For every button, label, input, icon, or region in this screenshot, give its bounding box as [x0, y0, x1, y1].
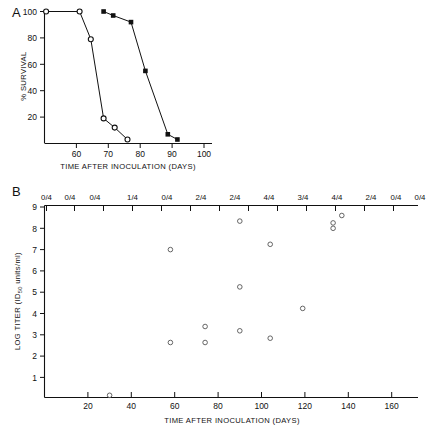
panel-b-top-ticks	[47, 206, 394, 212]
panel-b-xtick-160: 160	[385, 401, 399, 411]
fraction-label: 0/4	[415, 193, 427, 202]
panel-a-xtick-90: 90	[167, 149, 177, 159]
panel-a-xtick-80: 80	[135, 149, 145, 159]
scientific-figure: A 100 80 60 40 20	[0, 0, 427, 436]
data-point	[331, 226, 336, 231]
data-point	[203, 340, 208, 345]
panel-b-xtick-40: 40	[127, 401, 137, 411]
data-point	[238, 285, 243, 290]
panel-a-ytick-100: 100	[23, 7, 37, 17]
panel-b-x-axis-title: TIME AFTER INOCULATION (DAYS)	[164, 416, 300, 425]
panel-b-xtick-140: 140	[341, 401, 355, 411]
data-point	[107, 393, 112, 398]
panel-b-x-ticks	[88, 392, 392, 398]
panel-a-y-axis-title: % SURVIVAL	[19, 51, 28, 100]
panel-a-series-open-circle	[44, 9, 130, 142]
panel-b-scatter-points	[107, 213, 344, 397]
panel-b: B	[12, 184, 426, 425]
panel-a-filled-square-markers	[101, 9, 179, 142]
panel-b-ytick-9: 9	[32, 202, 37, 212]
data-point	[203, 324, 208, 329]
fraction-label: 1/4	[127, 193, 139, 202]
panel-b-ylabel-post: units/ml)	[13, 252, 22, 286]
panel-b-xtick-20: 20	[83, 401, 93, 411]
fraction-label: 0/4	[65, 193, 77, 202]
panel-a-y-ticks	[40, 12, 45, 118]
panel-b-letter: B	[12, 184, 21, 199]
fraction-label: 4/4	[332, 193, 344, 202]
panel-a-xtick-70: 70	[104, 149, 114, 159]
panel-a-x-axis-title: TIME AFTER INOCULATION (DAYS)	[60, 162, 196, 171]
panel-a-xtick-100: 100	[197, 149, 211, 159]
figure-container: A 100 80 60 40 20	[0, 0, 427, 436]
panel-a-ytick-80: 80	[28, 33, 38, 43]
panel-b-fraction-labels: 0/4 0/4 0/4 1/4 0/4 2/4 2/4 4/4 3/4 4/4 …	[41, 193, 426, 202]
panel-b-xtick-120: 120	[298, 401, 312, 411]
fraction-label: 0/4	[90, 193, 102, 202]
panel-b-y-ticks	[40, 207, 45, 377]
fraction-label: 2/4	[230, 193, 242, 202]
panel-a: A 100 80 60 40 20	[12, 5, 212, 171]
panel-b-ylabel-pre: LOG TITER (ID	[13, 293, 22, 350]
data-point	[168, 247, 173, 252]
data-point	[238, 329, 243, 334]
fraction-label: 2/4	[366, 193, 378, 202]
panel-b-ytick-5: 5	[32, 287, 37, 297]
panel-a-ytick-40: 40	[28, 86, 38, 96]
panel-a-ytick-20: 20	[28, 112, 38, 122]
panel-b-ytick-2: 2	[32, 351, 37, 361]
svg-text:LOG TITER (ID50 units/ml): LOG TITER (ID50 units/ml)	[13, 252, 23, 350]
panel-a-xtick-60: 60	[72, 149, 82, 159]
panel-b-ytick-6: 6	[32, 266, 37, 276]
fraction-label: 0/4	[162, 193, 174, 202]
fraction-label: 0/4	[41, 193, 53, 202]
panel-b-ytick-4: 4	[32, 309, 37, 319]
panel-b-xtick-60: 60	[170, 401, 180, 411]
data-point	[340, 213, 345, 218]
panel-a-letter: A	[12, 5, 21, 20]
panel-a-filled-square-line	[104, 12, 178, 140]
fraction-label: 0/4	[391, 193, 403, 202]
data-point	[168, 340, 173, 345]
fraction-label: 3/4	[298, 193, 310, 202]
data-point	[300, 306, 305, 311]
panel-a-series-filled-square	[101, 9, 179, 142]
panel-b-xtick-80: 80	[213, 401, 223, 411]
data-point	[238, 219, 243, 224]
panel-a-ytick-60: 60	[28, 60, 38, 70]
panel-b-xtick-100: 100	[254, 401, 268, 411]
panel-b-y-axis-title: LOG TITER (ID50 units/ml)	[13, 252, 23, 350]
fraction-label: 4/4	[264, 193, 276, 202]
panel-b-ytick-3: 3	[32, 330, 37, 340]
panel-b-ytick-7: 7	[32, 245, 37, 255]
panel-b-ytick-1: 1	[32, 373, 37, 383]
panel-b-ytick-8: 8	[32, 224, 37, 234]
data-point	[331, 221, 336, 226]
panel-a-open-circle-line	[46, 12, 127, 140]
data-point	[268, 336, 273, 341]
panel-b-ylabel-subscript: 50	[17, 286, 23, 293]
panel-a-x-ticks	[76, 144, 204, 149]
fraction-label: 2/4	[196, 193, 208, 202]
data-point	[268, 242, 273, 247]
